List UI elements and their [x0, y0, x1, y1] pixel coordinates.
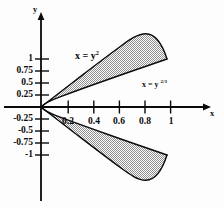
y-axis-arrowhead [38, 12, 45, 20]
upper-lens-fill [41, 34, 167, 107]
y-tick-label-0_5: 0.5 [2, 78, 33, 88]
y-tick-label-neg0_25: -0.25 [2, 114, 33, 124]
x-tick-label-0_2: 0.2 [55, 117, 81, 127]
plot-area [0, 0, 223, 209]
y-tick-label-0_25: 0.25 [2, 90, 33, 100]
x-tick-label-0_4: 0.4 [81, 117, 107, 127]
y-tick-label-neg0_75: -0.75 [2, 138, 33, 148]
x-axis-label: x [210, 109, 214, 118]
annotation-x-equals-y-two-thirds: x = y 2/3 [142, 81, 167, 89]
y-axis-label: y [33, 5, 37, 14]
y-tick-label-0_75: 0.75 [2, 66, 33, 76]
annotation-x-equals-y-squared: x = y2 [75, 51, 99, 61]
y-tick-label-1: 1 [2, 54, 33, 64]
y-tick-label-neg1: -1 [2, 150, 33, 160]
x-tick-label-0_6: 0.6 [106, 117, 132, 127]
figure-canvas: 1 0.75 0.5 0.25 -0.25 -0.5 -0.75 -1 0.2 … [0, 0, 223, 209]
x-tick-label-1: 1 [158, 117, 184, 127]
y-tick-label-neg0_5: -0.5 [2, 126, 33, 136]
x-tick-label-0_8: 0.8 [132, 117, 158, 127]
